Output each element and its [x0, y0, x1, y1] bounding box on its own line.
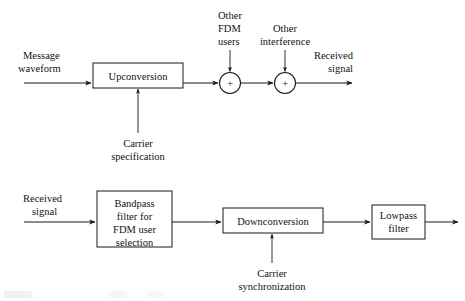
label-transmitter-received-signal-line1: Received [314, 50, 354, 61]
label-carrier-synchronization: Carrier synchronization [238, 268, 306, 292]
label-transmitter-received-signal: Received signal [314, 50, 354, 74]
block-bandpass-filter-line4: selection [116, 237, 154, 248]
label-receiver-received-signal-line2: signal [32, 206, 57, 217]
block-upconversion-label: Upconversion [109, 71, 169, 82]
block-lowpass-filter-line1: Lowpass [380, 210, 417, 221]
block-lowpass-filter[interactable]: Lowpass filter [372, 205, 425, 239]
adder-node-2[interactable]: + [275, 73, 296, 94]
diagram-canvas: Upconversion + + Message waveform [0, 0, 465, 301]
block-bandpass-filter-line2: filter for [117, 211, 153, 222]
label-receiver-received-signal-line1: Received [23, 193, 63, 204]
block-lowpass-filter-line2: filter [388, 223, 409, 234]
label-carrier-specification-line2: specification [111, 151, 165, 162]
label-other-fdm-users-line2: FDM [218, 23, 241, 34]
label-other-interference: Other interference [260, 23, 310, 47]
block-bandpass-filter-line1: Bandpass [114, 198, 154, 209]
block-downconversion[interactable]: Downconversion [223, 208, 323, 233]
adder-node-2-symbol: + [282, 77, 288, 89]
label-carrier-specification: Carrier specification [111, 138, 165, 162]
block-downconversion-label: Downconversion [237, 216, 309, 227]
label-message-waveform: Message waveform [18, 50, 61, 74]
label-carrier-synchronization-line1: Carrier [257, 268, 287, 279]
block-bandpass-filter[interactable]: Bandpass filter for FDM user selection [97, 191, 172, 248]
label-message-waveform-line1: Message [23, 50, 60, 61]
label-other-fdm-users-line3: users [218, 36, 240, 47]
block-bandpass-filter-line3: FDM user [113, 224, 156, 235]
adder-node-1-symbol: + [227, 77, 233, 89]
label-other-interference-line2: interference [260, 36, 310, 47]
label-carrier-specification-line1: Carrier [123, 138, 153, 149]
block-diagram-figure: Upconversion + + Message waveform [0, 0, 465, 301]
label-other-interference-line1: Other [273, 23, 297, 34]
label-other-fdm-users-line1: Other [218, 10, 242, 21]
label-other-fdm-users: Other FDM users [218, 10, 242, 47]
block-upconversion[interactable]: Upconversion [93, 63, 183, 88]
label-receiver-received-signal: Received signal [23, 193, 63, 217]
label-transmitter-received-signal-line2: signal [328, 63, 353, 74]
label-carrier-synchronization-line2: synchronization [238, 281, 306, 292]
adder-node-1[interactable]: + [220, 73, 241, 94]
label-message-waveform-line2: waveform [18, 63, 61, 74]
